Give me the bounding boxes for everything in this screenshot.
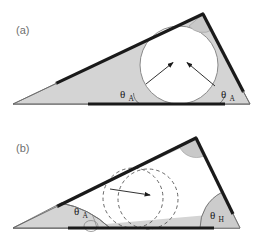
theta-a-left-label: θ	[120, 88, 125, 100]
theta-a-right-label: θ	[221, 88, 226, 100]
theta-h-right-subscript-b: H	[219, 215, 225, 224]
panel-a: (a) θ A θ A	[13, 14, 250, 106]
figure-svg: (a) θ A θ A	[0, 0, 262, 238]
panel-label-a: (a)	[16, 24, 29, 36]
theta-a-left-subscript: A	[129, 94, 135, 103]
figure-container: (a) θ A θ A	[0, 0, 262, 238]
panel-b: (b) θ A θ H	[13, 138, 240, 232]
theta-a-left-subscript-b: A	[83, 211, 89, 220]
panel-label-b: (b)	[16, 142, 29, 154]
theta-h-right-label-b: θ	[210, 209, 215, 221]
theta-a-left-label-b: θ	[74, 205, 79, 217]
theta-a-right-subscript: A	[230, 94, 236, 103]
